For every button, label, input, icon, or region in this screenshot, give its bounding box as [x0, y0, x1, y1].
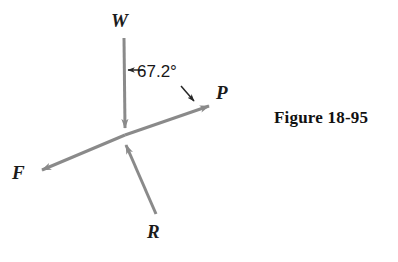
vector-F-line [42, 135, 125, 170]
vector-label-W: W [111, 11, 128, 30]
angle-leader-to-P [181, 86, 194, 101]
vector-label-F: F [12, 163, 25, 182]
vector-P-line [125, 106, 209, 135]
vector-W-line [124, 38, 125, 128]
vector-R-line [126, 145, 156, 214]
vector-label-P: P [216, 83, 228, 102]
force-vector-diagram [0, 0, 398, 262]
figure-caption: Figure 18-95 [274, 108, 368, 128]
angle-measurement-label: 67.2° [137, 62, 177, 82]
figure-container: W P F R 67.2° Figure 18-95 [0, 0, 398, 262]
vector-label-R: R [147, 222, 160, 241]
